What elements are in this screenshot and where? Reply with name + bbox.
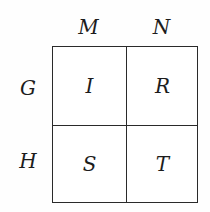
table-cell-h-m: S bbox=[53, 125, 126, 203]
column-header-m: M bbox=[52, 17, 125, 37]
row-label-g: G bbox=[6, 78, 50, 98]
table-cell-h-n: T bbox=[126, 125, 199, 203]
two-by-two-table-figure: M N G H I R S T bbox=[0, 0, 210, 212]
table-cell-g-m: I bbox=[53, 47, 126, 125]
table-grid: I R S T bbox=[52, 46, 198, 203]
column-header-n: N bbox=[125, 17, 198, 37]
table-cell-g-n: R bbox=[126, 47, 199, 125]
row-label-h: H bbox=[6, 151, 50, 171]
